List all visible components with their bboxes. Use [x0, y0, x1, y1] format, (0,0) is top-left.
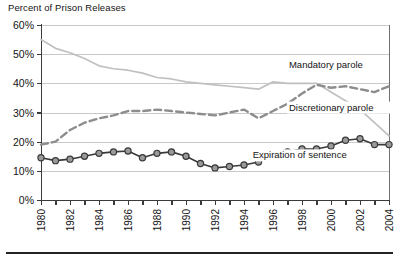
x-tick-label-1996: 1996 — [268, 209, 279, 232]
x-tick-label-2002: 2002 — [355, 209, 366, 232]
series-marker-2-8 — [154, 150, 160, 156]
x-axis-labels: 1980198219841986198819901992199419961998… — [36, 209, 395, 232]
y-tick-label-30: 30% — [13, 107, 34, 119]
series-marker-2-3 — [81, 153, 87, 159]
x-tick-label-1990: 1990 — [181, 209, 192, 232]
series-marker-2-1 — [52, 158, 58, 164]
series-line-1 — [41, 85, 389, 145]
y-tick-label-10: 10% — [13, 165, 34, 177]
series-marker-2-0 — [38, 155, 44, 161]
y-tick-label-0: 0% — [19, 194, 34, 206]
x-tick-label-1998: 1998 — [297, 209, 308, 232]
series-marker-2-22 — [357, 136, 363, 142]
y-tick-label-40: 40% — [13, 77, 34, 89]
y-tick-label-60: 60% — [13, 19, 34, 31]
x-tick-label-1980: 1980 — [36, 209, 47, 232]
series-marker-2-12 — [212, 165, 218, 171]
annotation-1: Discretionary parole — [289, 102, 373, 113]
series-marker-2-7 — [139, 155, 145, 161]
x-tick-label-1982: 1982 — [65, 209, 76, 232]
series-marker-2-11 — [197, 160, 203, 166]
series-marker-2-23 — [371, 141, 377, 147]
x-tick-label-1994: 1994 — [239, 209, 250, 232]
x-tick-label-2004: 2004 — [384, 209, 395, 232]
series-marker-2-14 — [241, 162, 247, 168]
series-marker-2-2 — [67, 156, 73, 162]
x-tick-label-1992: 1992 — [210, 209, 221, 232]
chart-plot-area: 0%10%20%30%40%50%60% 1980198219841986198… — [0, 0, 399, 260]
series-marker-2-6 — [125, 148, 131, 154]
series-marker-2-13 — [226, 163, 232, 169]
x-tick-label-2000: 2000 — [326, 209, 337, 232]
x-tick-label-1984: 1984 — [94, 209, 105, 232]
series-line-0 — [41, 40, 389, 136]
y-tick-label-20: 20% — [13, 136, 34, 148]
series-marker-2-24 — [386, 141, 392, 147]
series-marker-2-5 — [110, 149, 116, 155]
prison-releases-chart: Percent of Prison Releases 0%10%20%30%40… — [0, 0, 399, 260]
x-tick-label-1986: 1986 — [123, 209, 134, 232]
series-marker-2-10 — [183, 153, 189, 159]
series-marker-2-20 — [328, 143, 334, 149]
annotation-2: Expiration of sentence — [253, 149, 347, 160]
series-marker-2-21 — [342, 137, 348, 143]
y-axis-labels: 0%10%20%30%40%50%60% — [13, 19, 34, 206]
series-marker-2-4 — [96, 150, 102, 156]
x-tick-label-1988: 1988 — [152, 209, 163, 232]
annotation-0: Mandatory parole — [289, 59, 363, 70]
series-marker-2-9 — [168, 149, 174, 155]
y-tick-label-50: 50% — [13, 48, 34, 60]
